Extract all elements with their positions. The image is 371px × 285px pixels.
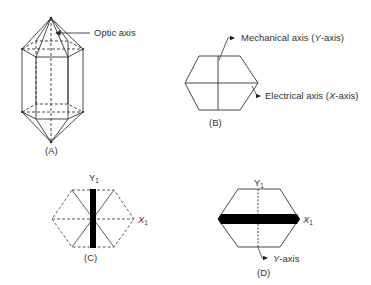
- crystal-cut-bar-d: [218, 214, 300, 224]
- mechanical-axis-suffix: -axis): [321, 32, 344, 43]
- electrical-axis-prefix: Electrical axis (: [265, 90, 329, 101]
- x1-sub-d: 1: [309, 219, 313, 226]
- y1-label-c: Y1: [89, 173, 99, 185]
- mechanical-axis-label: Mechanical axis (Y-axis): [241, 33, 344, 43]
- panel-c-label: (C): [84, 253, 97, 263]
- y1-sub-c: 1: [95, 177, 99, 184]
- optic-axis-label: Optic axis: [94, 28, 136, 38]
- panel-b-label: (B): [209, 118, 222, 128]
- mechanical-axis-pointer: [219, 38, 234, 60]
- y1-label-d: Y1: [254, 178, 264, 190]
- y-axis-label-d: Y-axis: [273, 254, 299, 264]
- quartz-crystal-a: [21, 17, 84, 144]
- hexagon-b: [185, 56, 258, 110]
- x1-label-c: X1: [138, 215, 148, 227]
- panel-a-label: (A): [45, 146, 58, 156]
- x1-label-d: X1: [303, 215, 313, 227]
- x1-sub-c: 1: [144, 219, 148, 226]
- mechanical-axis-prefix: Mechanical axis (: [241, 32, 314, 43]
- electrical-axis-label: Electrical axis (X-axis): [265, 91, 358, 101]
- panel-d-label: (D): [257, 268, 270, 278]
- y-axis-pointer-d: [258, 247, 267, 258]
- electrical-axis-suffix: -axis): [335, 90, 358, 101]
- y-axis-suffix-d: -axis: [279, 253, 299, 264]
- crystal-cut-bar-c: [90, 189, 96, 248]
- y1-sub-d: 1: [260, 182, 264, 189]
